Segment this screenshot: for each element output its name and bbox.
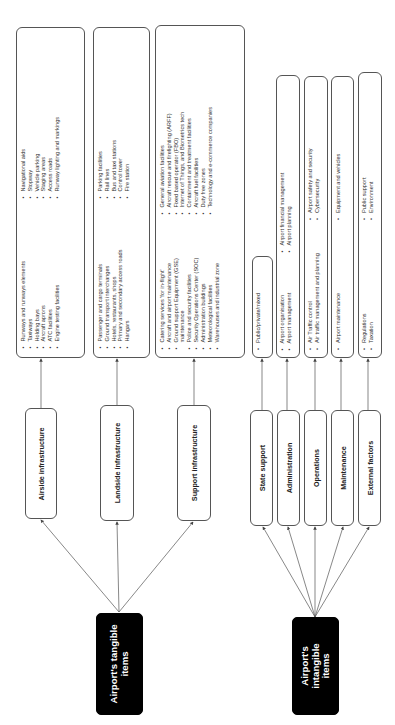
list-item: Engine testing facilities bbox=[54, 198, 61, 348]
maintenance-details-box: Airport maintenance Equipment and vehicl… bbox=[331, 76, 354, 358]
landside-details-box: Passenger and cargo terminals Ground tra… bbox=[93, 27, 150, 358]
external-factors-node: External factors bbox=[358, 410, 381, 526]
list-item: Airport maintenance bbox=[335, 220, 342, 350]
list-item: Regulations bbox=[361, 220, 368, 350]
airside-infrastructure-label: Airside infrastructure bbox=[37, 427, 46, 500]
airside-infrastructure-node: Airside infrastructure bbox=[25, 408, 57, 519]
list-item: Airport safety and security bbox=[307, 90, 314, 220]
list-item: Primary and secondary access roads bbox=[117, 198, 124, 348]
list-item: Catering services 'for in-flight' bbox=[159, 214, 166, 349]
list-item: Ground support Equipment (GSE) bbox=[173, 214, 180, 349]
airside-details-col2: Navigational aids Stopway Vehicle parkin… bbox=[20, 38, 82, 198]
list-item: Hotels, restaurants, shops bbox=[110, 198, 117, 348]
list-item: Meteorological facilities bbox=[207, 214, 214, 349]
operations-details-col2: Airport safety and security Cybersecurit… bbox=[307, 90, 325, 220]
list-item: Air Traffic control bbox=[307, 220, 314, 350]
operations-node: Operations bbox=[304, 410, 327, 526]
external-factors-details-box: Regulations Taxation Public support Envi… bbox=[358, 72, 382, 358]
state-support-details-box: Public/private/mixed bbox=[252, 256, 273, 358]
landside-infrastructure-node: Landside infrastructure bbox=[100, 405, 134, 521]
list-item: Aircraft fuel facilities bbox=[193, 34, 200, 214]
tangible-root-node: Airport's tangible items bbox=[96, 613, 143, 715]
list-item: Runway lighting and markings bbox=[54, 38, 61, 198]
list-item: Airport financial management bbox=[279, 102, 286, 252]
airside-details-col1: Runways and runways elements Taxiways Ho… bbox=[20, 198, 82, 352]
list-item: Control tower bbox=[117, 38, 124, 198]
maintenance-details-col1: Airport maintenance bbox=[335, 220, 351, 354]
list-item: Security Operations Center (SOC) bbox=[193, 214, 200, 349]
administration-label: Administration bbox=[284, 443, 293, 494]
list-item: Public support bbox=[361, 90, 368, 220]
list-item: Airport organisation bbox=[279, 252, 286, 350]
list-item: Navigational aids bbox=[20, 38, 27, 198]
list-item: Ground transport interchanges bbox=[103, 198, 110, 348]
support-details-col1: Catering services 'for in-flight' Aircra… bbox=[159, 214, 241, 353]
list-item: Stopway bbox=[26, 38, 33, 198]
external-factors-label: External factors bbox=[365, 441, 374, 495]
external-factors-details-col2: Public support Environment bbox=[361, 90, 379, 220]
support-infrastructure-label: Support infrastructure bbox=[190, 425, 199, 501]
administration-node: Administration bbox=[277, 410, 300, 526]
list-item: Parking facilities bbox=[97, 38, 104, 198]
list-item: Fixed based operator (FBO) bbox=[173, 34, 180, 214]
list-item: ATC facilities bbox=[47, 198, 54, 348]
tangible-root-label-line2: items bbox=[120, 624, 131, 703]
list-item: Aircraft rescue and firefighting (ARFF) bbox=[166, 34, 173, 214]
list-item: Equipment and vehicles bbox=[335, 90, 342, 220]
list-item: Airport management bbox=[286, 252, 293, 350]
list-item: maintenance bbox=[179, 214, 186, 349]
landside-details-col2: Parking facilities Rail lines Bus and ta… bbox=[97, 38, 147, 198]
list-item: Aircraft and airport maintenance bbox=[166, 214, 173, 349]
operations-label: Operations bbox=[311, 449, 320, 487]
list-item: Staging areas bbox=[40, 38, 47, 198]
list-item: Bus and taxi stations bbox=[110, 38, 117, 198]
list-item: Administration buildings bbox=[200, 214, 207, 349]
list-item: Hangars bbox=[124, 198, 131, 348]
airside-details-box: Runways and runways elements Taxiways Ho… bbox=[16, 27, 85, 358]
external-factors-details-col1: Regulations Taxation bbox=[361, 220, 379, 354]
list-item: Air traffic management and planning bbox=[314, 220, 321, 350]
list-item: Internet of Things, and Biometrics tech bbox=[179, 34, 186, 214]
list-item: Public/private/mixed bbox=[255, 260, 262, 350]
list-item: Airport planning bbox=[286, 102, 293, 252]
list-item: Vehicle parking bbox=[33, 38, 40, 198]
administration-details-col2: Airport financial management Airport pla… bbox=[279, 102, 297, 252]
operations-details-box: Air Traffic control Air traffic manageme… bbox=[304, 76, 328, 358]
maintenance-label: Maintenance bbox=[338, 446, 347, 490]
operations-details-col1: Air Traffic control Air traffic manageme… bbox=[307, 220, 325, 354]
landside-details-col1: Passenger and cargo terminals Ground tra… bbox=[97, 198, 147, 352]
intangible-root-label-line3: items bbox=[321, 643, 332, 688]
intangible-root-node: Airport's intangible items bbox=[292, 617, 339, 715]
support-details-col2: General aviation facilities Aircraft res… bbox=[159, 34, 241, 214]
maintenance-node: Maintenance bbox=[331, 410, 354, 526]
list-item: Fire station bbox=[124, 38, 131, 198]
support-details-box: Catering services 'for in-flight' Aircra… bbox=[155, 25, 245, 358]
list-item: Police and security facilities bbox=[186, 214, 193, 349]
intangible-root-label-line1: Airport's bbox=[299, 643, 310, 688]
administration-details-col1: Airport organisation Airport management bbox=[279, 252, 297, 354]
state-support-node: State support bbox=[250, 410, 273, 526]
list-item: Passenger and cargo terminals bbox=[97, 198, 104, 348]
list-item: Taxiways bbox=[26, 198, 33, 348]
list-item: Duty free zones bbox=[200, 34, 207, 214]
list-item: Rail lines bbox=[103, 38, 110, 198]
list-item: Aircraft aprons bbox=[40, 198, 47, 348]
list-item: Warehouses and industrial zone bbox=[214, 214, 221, 349]
list-item: Technology and e-commerce companies bbox=[207, 34, 214, 214]
maintenance-details-col2: Equipment and vehicles bbox=[335, 90, 351, 220]
list-item: Holding bays bbox=[33, 198, 40, 348]
list-item: Runways and runways elements bbox=[20, 198, 27, 348]
landside-infrastructure-label: Landside infrastructure bbox=[113, 423, 122, 503]
tangible-root-label-line1: Airport's tangible bbox=[109, 624, 120, 703]
list-item: Access roads bbox=[47, 38, 54, 198]
list-item: Containment and treatment facilities bbox=[186, 34, 193, 214]
administration-details-box: Airport organisation Airport management … bbox=[276, 75, 300, 358]
support-infrastructure-node: Support infrastructure bbox=[177, 405, 211, 521]
intangible-root-label-line2: intangible bbox=[310, 643, 321, 688]
state-support-details-col1: Public/private/mixed bbox=[255, 260, 262, 354]
list-item: General aviation facilities bbox=[159, 34, 166, 214]
list-item: Environment bbox=[368, 90, 375, 220]
state-support-label: State support bbox=[257, 445, 266, 491]
list-item: Taxation bbox=[368, 220, 375, 350]
list-item: Cybersecurity bbox=[314, 90, 321, 220]
